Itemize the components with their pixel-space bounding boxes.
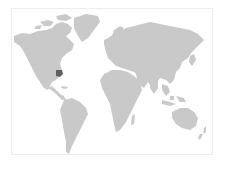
continent-south-america — [60, 98, 88, 154]
region-central-america — [48, 86, 68, 100]
region-greenland — [74, 14, 100, 42]
region-japan — [189, 54, 196, 66]
region-new-zealand — [198, 126, 206, 140]
region-madagascar — [131, 114, 135, 125]
region-southeast-asia — [162, 84, 186, 106]
highlighted-region[interactable] — [56, 70, 63, 77]
continent-australia — [172, 108, 198, 130]
world-map — [0, 0, 226, 171]
continent-north-america — [14, 22, 74, 90]
continent-africa — [100, 70, 142, 132]
